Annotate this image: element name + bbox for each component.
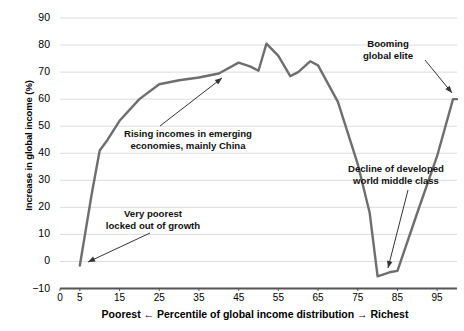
annotation-very-poorest-line2: locked out of growth [95,220,211,232]
x-tick-label: 15 [105,292,135,303]
y-tick-label: 50 [16,119,50,131]
annotation-booming-global-elite: Booming global elite [345,38,431,61]
x-tick-label: 25 [144,292,174,303]
arrow-rising-incomes [160,78,222,126]
y-tick-label: 90 [16,11,50,23]
annotation-decline-line1: Decline of developed [340,163,452,175]
annotation-very-poorest-line1: Very poorest [95,208,211,220]
annotation-rising-incomes-line1: Rising incomes in emerging [108,128,268,140]
x-axis-title: Poorest ← Percentile of global income di… [60,308,450,320]
x-tick-label: 85 [382,292,412,303]
x-tick-label: 75 [343,292,373,303]
y-tick-label: 60 [16,92,50,104]
annotation-booming-line2: global elite [345,50,431,62]
arrow-decline-middle-class [388,190,408,268]
annotation-decline-middle-class: Decline of developed world middle class [340,163,452,186]
y-tick-label: 40 [16,146,50,158]
x-tick-label: 55 [263,292,293,303]
x-tick-label: 35 [184,292,214,303]
x-tick-label: 45 [224,292,254,303]
y-tick-label: 10 [16,227,50,239]
x-tick-label: 65 [303,292,333,303]
y-tick-label: 0 [16,254,50,266]
arrow-very-poorest [88,233,150,262]
annotation-rising-incomes-line2: economies, mainly China [108,140,268,152]
annotation-booming-line1: Booming [345,38,431,50]
x-tick-label: 5 [65,292,95,303]
elephant-curve-chart: Increase in global income (%) Poorest ← … [0,0,464,331]
income-growth-line [80,44,457,277]
y-tick-label: 80 [16,38,50,50]
annotation-very-poorest: Very poorest locked out of growth [95,208,211,231]
annotation-rising-incomes: Rising incomes in emerging economies, ma… [108,128,268,151]
annotation-decline-line2: world middle class [340,175,452,187]
y-tick-label: 20 [16,200,50,212]
y-tick-label: 70 [16,65,50,77]
arrow-very-poorest-head [88,257,96,263]
x-tick-label: 95 [422,292,452,303]
y-tick-label: 30 [16,173,50,185]
arrow-rising-incomes-head [215,78,222,85]
